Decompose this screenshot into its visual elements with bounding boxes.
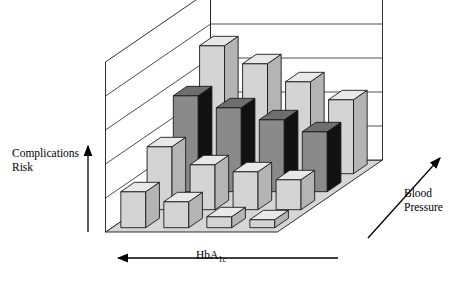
x-axis-label: HbA1c [196,248,226,265]
z-axis-label: Blood Pressure [404,186,443,215]
bar-3d [276,170,315,209]
bar-front-face [164,202,189,228]
bar-front-face [207,217,232,228]
x-axis-label-main: HbA [196,249,218,261]
bar-3d [233,162,272,209]
bar-3d [121,182,160,227]
chart-canvas [0,0,462,282]
y-axis-label: Complications Risk [12,146,79,175]
bar-front-face [276,180,301,210]
bar-side-face [327,122,341,191]
bar-side-face [354,90,368,173]
bar-front-face [233,172,258,210]
bar-front-face [250,220,275,228]
bar-front-face [121,192,146,228]
x-axis-label-subscript: 1c [218,255,226,264]
figure-3d-bar-chart: Complications Risk Blood Pressure HbA1c [0,0,462,282]
bar-3d [164,192,203,227]
